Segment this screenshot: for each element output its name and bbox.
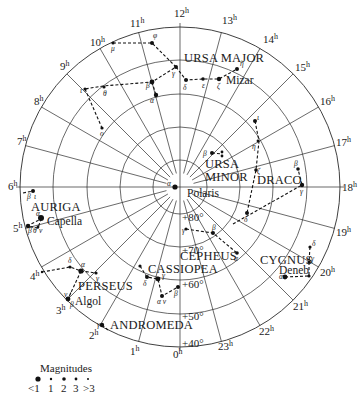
- star-dra-eta: [257, 140, 260, 143]
- svg-text:β: β: [293, 159, 298, 168]
- ra-label-13h: 13h: [222, 13, 237, 26]
- svg-text:v: v: [39, 226, 43, 235]
- svg-text:δ: δ: [68, 256, 72, 265]
- ra-label-20h: 20h: [320, 265, 335, 278]
- star-and-gamma: [100, 323, 104, 327]
- ra-label-10h: 10h: [90, 35, 105, 48]
- svg-text:δ: δ: [244, 215, 248, 224]
- label-capella: Capella: [47, 215, 82, 228]
- label-deneb: Deneb: [279, 264, 309, 276]
- ra-label-4h: 4h: [30, 269, 40, 282]
- legend-label-lt1: <1: [28, 382, 40, 394]
- ra-label-21h: 21h: [293, 299, 308, 312]
- star-mizar: [217, 77, 221, 81]
- ra-label-11h: 11h: [130, 16, 145, 29]
- svg-text:μ: μ: [111, 44, 115, 53]
- svg-text:ζ: ζ: [217, 82, 221, 91]
- svg-text:β: β: [173, 289, 178, 298]
- star-uma-beta: [150, 80, 155, 85]
- ra-label-23h: 23h: [218, 339, 233, 352]
- svg-text:δ: δ: [312, 239, 316, 248]
- star-uma-delta: [184, 78, 188, 82]
- svg-text:o: o: [100, 129, 104, 138]
- svg-text:γ: γ: [300, 187, 304, 196]
- dec-label-40: +40°: [182, 337, 204, 349]
- star-cas-epsilon: [138, 264, 141, 267]
- star-per-alpha: [78, 268, 83, 273]
- star-uma-eta: [235, 67, 239, 71]
- label-ursa-minor-line2: MINOR: [205, 170, 248, 184]
- legend-label-1: 1: [48, 382, 54, 394]
- ra-label-7h: 7h: [17, 134, 27, 147]
- ra-label-5h: 5h: [13, 221, 23, 234]
- legend-title: Magnitudes: [40, 362, 92, 374]
- ursa-major-leg: [85, 89, 102, 128]
- ra-label-17h: 17h: [336, 135, 351, 148]
- ra-label-19h: 19h: [336, 225, 351, 238]
- svg-text:α: α: [81, 260, 86, 269]
- ra-label-6h: 6h: [8, 179, 18, 192]
- svg-text:φ: φ: [153, 31, 157, 40]
- svg-text:θ: θ: [103, 89, 107, 98]
- svg-text:β: β: [145, 81, 150, 90]
- svg-text:β: β: [27, 226, 32, 235]
- label-mizar: Mizar: [226, 74, 254, 86]
- label-auriga: AURIGA: [31, 200, 81, 214]
- dec-label-80: +80°: [182, 211, 204, 223]
- ra-labels: 12h13h14h15h16h17h18h19h20h21h22h23h0h1h…: [8, 6, 357, 360]
- ra-label-14h: 14h: [263, 32, 278, 45]
- magnitude-legend: Magnitudes <1 1 2 3 >3: [28, 362, 95, 394]
- dec-label-60: +60°: [182, 278, 204, 290]
- hour-line-7: [25, 146, 166, 184]
- star-per-delta: [68, 265, 71, 268]
- ra-label-9h: 9h: [60, 59, 70, 72]
- label-polaris: Polaris: [187, 187, 219, 199]
- label-algol: Algol: [75, 295, 101, 308]
- ra-label-18h: 18h: [342, 180, 357, 193]
- ra-label-3h: 3h: [56, 303, 66, 316]
- label-ursa-major: URSA MAJOR: [184, 51, 265, 65]
- legend-label-3: 3: [73, 382, 79, 394]
- svg-text:β: β: [211, 223, 216, 232]
- star-polaris: [172, 184, 177, 189]
- legend-mag-3-icon: [75, 378, 78, 381]
- legend-mag-lt1-icon: [35, 376, 40, 381]
- svg-text:ι: ι: [80, 86, 82, 95]
- legend-mag-2-icon: [62, 377, 66, 381]
- legend-mag-gt3-icon: [87, 378, 89, 380]
- label-ursa-minor-line1: URSA: [205, 157, 239, 171]
- svg-text:δ: δ: [143, 279, 147, 288]
- svg-text:ι: ι: [257, 113, 259, 122]
- legend-mag-1-icon: [50, 378, 52, 380]
- label-perseus: PERSEUS: [78, 279, 133, 293]
- legend-label-gt3: >3: [83, 382, 95, 394]
- ra-label-12h: 12h: [174, 6, 189, 19]
- svg-text:γ: γ: [172, 69, 176, 78]
- label-cassiopea: CASSIOPEA: [148, 262, 218, 276]
- label-cepheus: CEPHEUS: [180, 249, 237, 263]
- ra-label-22h: 22h: [259, 324, 274, 337]
- svg-text:δ: δ: [183, 83, 187, 92]
- label-andromeda: ANDROMEDA: [110, 318, 193, 332]
- label-draco: DRACO: [257, 173, 302, 187]
- svg-text:α v: α v: [157, 297, 167, 306]
- star-uma-iota: [83, 87, 86, 90]
- svg-text:β: β: [69, 300, 74, 309]
- star-per-4h: [41, 271, 43, 273]
- ra-label-2h: 2h: [89, 328, 99, 341]
- hour-line-11: [139, 32, 177, 173]
- svg-text:η: η: [252, 142, 256, 151]
- svg-text:γ: γ: [182, 226, 186, 235]
- star-cas-gamma: [156, 277, 161, 282]
- ursa-major-lines: [85, 43, 176, 89]
- ra-label-15h: 15h: [295, 60, 310, 73]
- ra-label-16h: 16h: [320, 94, 335, 107]
- svg-text:θ: θ: [33, 226, 37, 235]
- legend-label-2: 2: [61, 382, 67, 394]
- star-uma-alpha: [154, 93, 158, 97]
- constellation-labels: URSA MAJOR URSA MINOR DRACO CEPHEUS CASS…: [31, 51, 313, 332]
- star-umi-beta: [210, 151, 214, 155]
- star-uma-phi: [150, 41, 154, 45]
- ra-label-1h: 1h: [130, 344, 140, 357]
- svg-text:ε: ε: [202, 81, 205, 90]
